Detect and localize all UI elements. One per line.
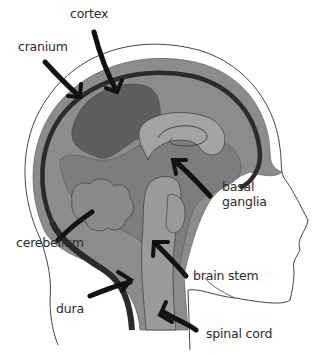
label-cerebellum: cerebellum: [16, 236, 84, 250]
label-dura: dura: [56, 302, 84, 316]
label-basal-ganglia-line2: ganglia: [222, 195, 267, 209]
label-basal-ganglia-line1: basal: [222, 180, 254, 194]
label-cranium: cranium: [18, 40, 68, 54]
label-brain-stem: brain stem: [193, 269, 258, 283]
cranium-arrow: [45, 62, 78, 95]
label-cortex: cortex: [70, 7, 108, 21]
label-spinal-cord: spinal cord: [206, 327, 272, 341]
